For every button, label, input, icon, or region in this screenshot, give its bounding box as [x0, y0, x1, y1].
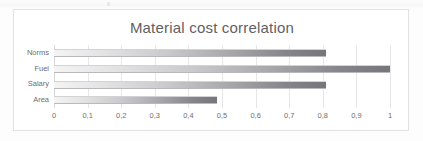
chart-screenshot: Material cost correlation NormsFuelSalar… [0, 0, 423, 141]
bar-salary [54, 81, 326, 89]
gridline [390, 45, 391, 108]
category-label-fuel: Fuel [13, 64, 49, 73]
scan-speck [107, 2, 110, 6]
bar-row [54, 92, 390, 108]
chart-title: Material cost correlation [14, 19, 410, 36]
x-tick-label: 0,3 [150, 111, 160, 120]
x-tick-label: 0,4 [183, 111, 193, 120]
x-tick-label: 0,2 [116, 111, 126, 120]
scan-noise [0, 0, 423, 9]
bar-row [54, 61, 390, 77]
bar-norms [54, 49, 326, 57]
chart-frame: Material cost correlation NormsFuelSalar… [13, 9, 409, 131]
x-tick-label: 0,1 [82, 111, 92, 120]
category-label-area: Area [13, 95, 49, 104]
x-tick-label: 0,7 [284, 111, 294, 120]
bar-row [54, 45, 390, 61]
bar-series [54, 45, 390, 108]
x-tick-label: 0,9 [351, 111, 361, 120]
plot-area [54, 45, 390, 108]
category-label-norms: Norms [13, 48, 49, 57]
bar-fuel [54, 65, 390, 73]
bar-row [54, 77, 390, 93]
category-label-salary: Salary [13, 79, 49, 88]
x-tick-label: 0,5 [217, 111, 227, 120]
x-axis-tick-labels: 00,10,20,30,40,50,60,70,80,91 [54, 111, 390, 125]
x-tick-label: 0,6 [250, 111, 260, 120]
x-tick-label: 0 [52, 111, 56, 120]
bar-area [54, 96, 217, 104]
x-tick-label: 0,8 [318, 111, 328, 120]
category-axis-labels: NormsFuelSalaryArea [14, 45, 52, 108]
x-tick-label: 1 [388, 111, 392, 120]
